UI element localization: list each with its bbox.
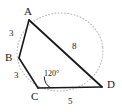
edge-length-CD: 5 [68,97,73,106]
vertex-label-A: A [24,6,32,17]
edge-length-BC: 3 [14,71,19,80]
figure-canvas [0,0,122,112]
edge-AD [29,20,102,87]
edge-length-AB: 3 [9,29,14,38]
vertex-label-B: B [5,52,12,63]
angle-arc-C [44,77,51,88]
edge-length-AD: 8 [72,42,77,51]
vertex-label-D: D [107,79,115,90]
circumcircle-dotted [13,9,107,96]
edge-CD [38,87,102,88]
angle-measure-C: 120° [44,70,59,78]
vertex-label-C: C [31,91,38,102]
edge-BC [19,58,38,88]
geometry-figure: A B C D 3 3 5 8 120° [0,0,122,112]
edge-AB [19,20,29,58]
